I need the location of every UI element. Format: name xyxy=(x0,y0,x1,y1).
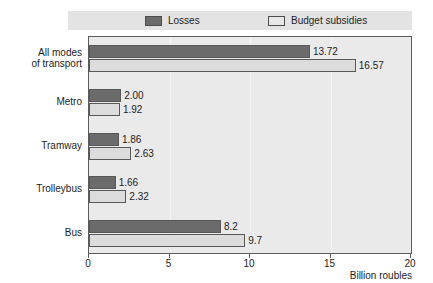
chart-legend: Losses Budget subsidies xyxy=(68,11,412,30)
legend-swatch-budget-subsidies xyxy=(268,16,285,26)
legend-item-losses: Losses xyxy=(145,15,200,26)
bar-budget-subsidies xyxy=(89,234,245,247)
x-axis-tick-label: 15 xyxy=(324,258,335,270)
bar-value-label: 9.7 xyxy=(245,234,262,247)
bar-value-label: 1.92 xyxy=(120,103,142,116)
bar-budget-subsidies xyxy=(89,147,131,160)
bar-value-label: 16.57 xyxy=(356,59,384,72)
legend-swatch-losses xyxy=(145,16,162,26)
bar-value-label: 2.32 xyxy=(126,190,148,203)
x-axis-title: Billion roubles xyxy=(350,270,412,282)
bar-budget-subsidies xyxy=(89,103,120,116)
x-axis-tick-label: 5 xyxy=(166,258,172,270)
bar-budget-subsidies xyxy=(89,190,126,203)
bar-value-label: 2.63 xyxy=(131,147,153,160)
x-axis-tick-label: 10 xyxy=(243,258,254,270)
legend-label-budget-subsidies: Budget subsidies xyxy=(291,15,367,26)
y-axis-label-trolleybus: Trolleybus xyxy=(0,183,82,194)
bar-losses xyxy=(89,176,116,189)
y-axis-label-tramway: Tramway xyxy=(0,140,82,151)
legend-item-budget-subsidies: Budget subsidies xyxy=(268,15,367,26)
x-axis-tick-label: 20 xyxy=(404,258,415,270)
bar-value-label: 1.86 xyxy=(119,133,141,146)
bar-value-label: 1.66 xyxy=(116,176,138,189)
bar-value-label: 8.2 xyxy=(221,220,238,233)
y-axis-label-all-modes-of-transport: All modesof transport xyxy=(0,47,82,69)
plot-area: 13.7216.572.001.921.862.631.662.328.29.7 xyxy=(88,36,412,254)
y-axis-label-bus: Bus xyxy=(0,227,82,238)
bar-losses xyxy=(89,89,121,102)
x-axis: Billion roubles 05101520 xyxy=(88,254,412,282)
x-axis-tick-label: 0 xyxy=(85,258,91,270)
bar-budget-subsidies xyxy=(89,59,356,72)
bar-losses xyxy=(89,45,310,58)
bar-losses xyxy=(89,133,119,146)
y-axis-labels: All modesof transportMetroTramwayTrolley… xyxy=(0,36,82,254)
legend-label-losses: Losses xyxy=(168,15,200,26)
chart-page: Losses Budget subsidies All modesof tran… xyxy=(0,0,433,283)
bar-value-label: 2.00 xyxy=(121,89,143,102)
bar-value-label: 13.72 xyxy=(310,45,338,58)
y-axis-label-metro: Metro xyxy=(0,96,82,107)
bar-losses xyxy=(89,220,221,233)
